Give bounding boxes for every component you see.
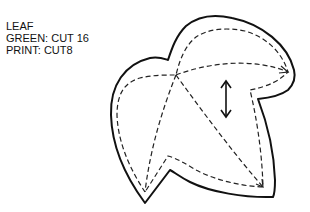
vein-to-bottom-right: [176, 75, 263, 187]
leaf-cut-outline: [111, 16, 295, 203]
leaf-pattern-diagram: [0, 0, 310, 212]
vein-to-bottom-left: [145, 75, 176, 192]
vein-to-top-right: [176, 63, 288, 75]
grainline-arrow-icon: [221, 81, 231, 117]
